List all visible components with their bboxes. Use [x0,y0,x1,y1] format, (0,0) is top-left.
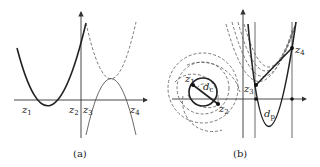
label-z4-b: z4 [294,44,305,57]
label-z1-a: z1 [21,104,32,117]
label-z3-b: z3 [243,83,254,96]
dashed-parabola-family [226,22,296,82]
label-z4-a: z4 [129,104,140,117]
label-z2-b: z2 [218,103,229,116]
point-axis-z3 [254,97,258,101]
point-axis-z4 [290,97,294,101]
caption-b: (b) [233,148,247,159]
point-z4-b [290,46,294,50]
label-z3-a: z3 [82,104,93,117]
panel-a: z1 z2 z3 z4 (a) [14,12,147,159]
panel-b: z1 z2 z3 z4 dc dp (b) [168,10,306,159]
dashed-parabola-upper-a [86,22,136,79]
solid-parabola-a [17,23,86,106]
dashed-circle-family [168,53,240,132]
figure-canvas: z1 z2 z3 z4 (a) [0,0,320,167]
thin-parabola-lower-a [86,79,136,136]
label-z2-a: z2 [68,104,79,117]
caption-a: (a) [73,148,87,159]
point-z3-b [254,83,258,87]
label-z1-b: z1 [184,73,195,86]
label-dp: dp [264,108,275,121]
